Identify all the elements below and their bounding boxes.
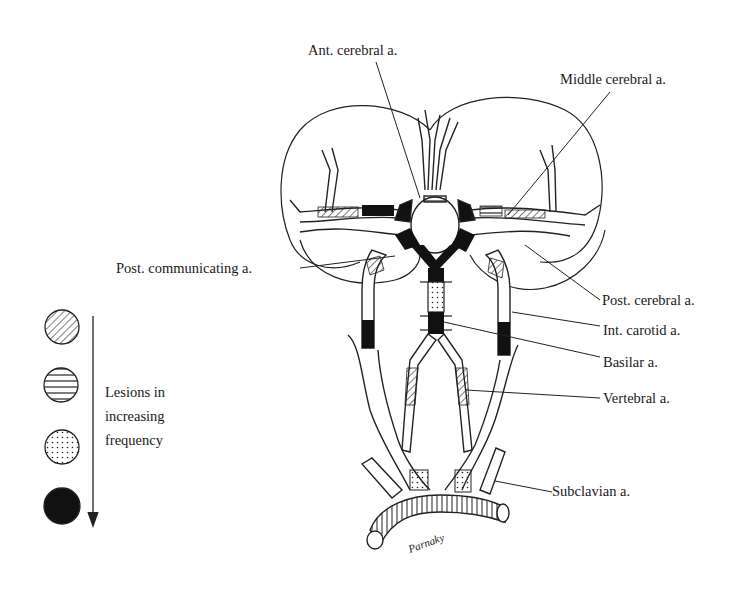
label-subclavian: Subclavian a.	[552, 484, 630, 499]
label-post-communicating: Post. communicating a.	[116, 261, 252, 276]
carotid-right-origin-lesion	[455, 470, 471, 492]
anterior-branches	[418, 110, 458, 190]
artist-signature: Parnaky	[406, 531, 446, 555]
label-post-cerebral: Post. cerebral a.	[602, 293, 695, 308]
legend-solid-icon	[44, 488, 80, 524]
ica-left-lesion	[362, 320, 374, 348]
basilar-mid-lesion	[428, 282, 444, 312]
label-ant-cerebral: Ant. cerebral a.	[308, 43, 397, 58]
label-vertebral: Vertebral a.	[603, 391, 670, 406]
legend-line-1: Lesions in	[105, 380, 165, 404]
legend-horizontal-hatch-icon	[44, 368, 78, 402]
basilar-bottom-lesion	[428, 312, 444, 334]
leader-lines	[300, 62, 610, 492]
label-basilar: Basilar a.	[603, 355, 658, 370]
subclavian-stubs	[362, 448, 505, 498]
ica-right-lesion	[498, 322, 510, 355]
legend-caption: Lesions in increasing frequency	[105, 380, 165, 452]
mca-right-lesion-h	[480, 206, 502, 216]
legend-stippled-icon	[45, 430, 79, 464]
mca-left-lesion	[318, 207, 358, 217]
label-int-carotid: Int. carotid a.	[603, 323, 680, 338]
basilar-top	[428, 268, 444, 282]
vertebral-right-lesion	[456, 368, 469, 405]
legend-line-2: increasing	[105, 404, 165, 428]
vertebral-left-lesion	[405, 368, 418, 405]
ica-right-top-lesion	[488, 258, 504, 278]
carotid-left-origin-lesion	[410, 470, 428, 490]
legend-arrow-down-icon	[88, 512, 98, 526]
legend-line-3: frequency	[105, 428, 165, 452]
mca-left-lesion-solid	[362, 205, 394, 216]
legend	[44, 310, 98, 526]
legend-diagonal-hatch-icon	[45, 310, 79, 344]
label-middle-cerebral: Middle cerebral a.	[560, 72, 666, 87]
